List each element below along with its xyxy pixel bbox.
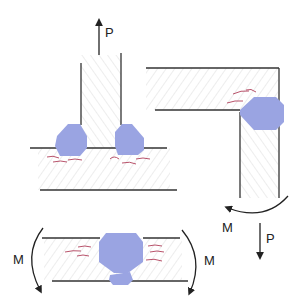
weld-right	[115, 124, 144, 155]
right-moment-arrow-icon	[182, 230, 196, 292]
butt-right-moment-label: M	[204, 253, 215, 268]
weld-left	[55, 124, 87, 156]
butt-left-moment-label: M	[13, 252, 24, 267]
moment-arrow-icon	[228, 196, 288, 213]
butt-joint: M M	[13, 228, 215, 292]
corner-moment-label: M	[222, 220, 233, 235]
t-joint-base-plate	[38, 148, 170, 190]
welded-joints-diagram: P M P M M	[0, 0, 302, 307]
left-moment-arrow-icon	[32, 228, 43, 290]
corner-load-label: P	[266, 231, 275, 246]
t-joint-load-label: P	[105, 25, 114, 40]
